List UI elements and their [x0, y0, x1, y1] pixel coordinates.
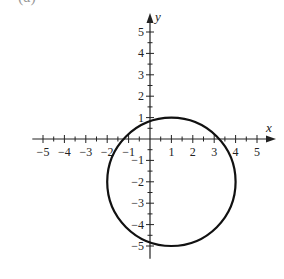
y-tick-label: −4 [131, 218, 144, 232]
y-tick-label: −5 [131, 239, 144, 253]
x-axis-label: x [265, 120, 272, 135]
x-tick-label: 4 [233, 145, 239, 159]
x-tick-label: −4 [58, 145, 71, 159]
y-tick-label: 5 [138, 25, 144, 39]
y-tick-label: −1 [131, 153, 144, 167]
axes [32, 13, 276, 259]
y-tick-label: −3 [131, 196, 144, 210]
y-tick-label: −2 [131, 175, 144, 189]
x-tick-label: 3 [211, 145, 217, 159]
coordinate-plane: xy−5−4−3−2−11234554321−1−2−3−4−5 [0, 0, 284, 279]
y-tick-label: 4 [138, 46, 144, 60]
x-tick-label: 1 [168, 145, 174, 159]
x-axis-arrow-icon [266, 136, 276, 143]
y-axis-label: y [153, 9, 161, 24]
x-tick-label: −5 [37, 145, 50, 159]
x-tick-label: 2 [190, 145, 196, 159]
y-tick-label: 3 [138, 68, 144, 82]
y-axis-arrow-icon [147, 13, 154, 23]
x-tick-label: 5 [254, 145, 260, 159]
tick-labels: xy−5−4−3−2−11234554321−1−2−3−4−5 [37, 9, 272, 253]
y-tick-label: 2 [138, 89, 144, 103]
y-tick-label: 1 [138, 111, 144, 125]
x-tick-label: −3 [79, 145, 92, 159]
